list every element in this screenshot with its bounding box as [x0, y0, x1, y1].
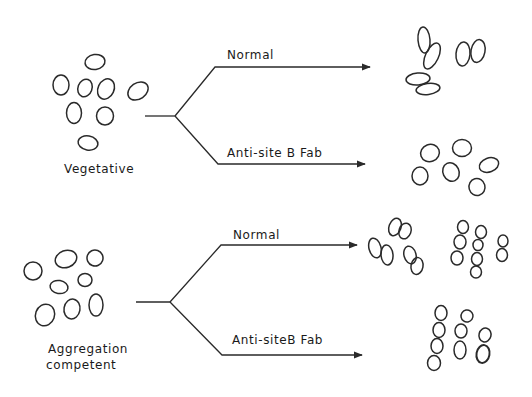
vegetative-normal-outcome-cells: [406, 27, 487, 97]
aggregation-fab-outcome-cells: [428, 306, 493, 371]
aggregation-normal-label: Normal: [233, 228, 280, 242]
vegetative-fab-label: Anti-site B Fab: [227, 146, 323, 160]
vegetative-fab-outcome-cells: [412, 140, 501, 198]
aggregation-label-line2: competent: [46, 358, 116, 372]
aggregation-normal-outcome-cells: [367, 216, 508, 278]
aggregation-fab-label: Anti-siteB Fab: [232, 333, 323, 347]
vegetative-label: Vegetative: [64, 162, 134, 176]
vegetative-cells: [53, 53, 152, 151]
aggregation-label-line1: Aggregation: [48, 342, 128, 356]
vegetative-normal-label: Normal: [227, 48, 274, 62]
aggregation-competent-cells: [24, 247, 106, 328]
